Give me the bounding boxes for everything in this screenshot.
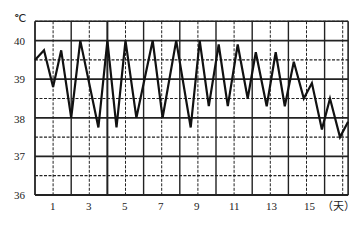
x-tick-label: 1: [50, 200, 56, 212]
y-axis-labels: 40 39 38 37 36: [14, 35, 26, 201]
x-tick-label: 5: [122, 200, 128, 212]
y-tick-label: 38: [14, 113, 26, 125]
y-unit-label: ℃: [14, 12, 26, 24]
y-tick-label: 40: [14, 35, 26, 47]
x-tick-label: 13: [266, 200, 278, 212]
temperature-line: [35, 41, 348, 138]
x-tick-label: 15: [304, 200, 316, 212]
y-tick-label: 39: [14, 73, 26, 85]
temperature-chart: ℃ 40 39 38 37 36 1 3 5 7 9 11 13 15 （天）: [0, 0, 364, 226]
x-tick-label: 3: [86, 200, 92, 212]
x-tick-label: 9: [194, 200, 200, 212]
x-tick-label: 7: [158, 200, 164, 212]
x-unit-label: （天）: [322, 200, 355, 212]
y-tick-label: 36: [14, 189, 26, 201]
x-axis-labels: 1 3 5 7 9 11 13 15 （天）: [50, 200, 355, 212]
x-tick-label: 11: [229, 200, 240, 212]
y-tick-label: 37: [14, 150, 26, 162]
